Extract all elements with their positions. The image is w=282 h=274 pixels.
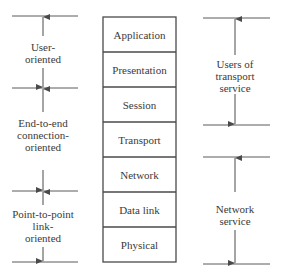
right-boundary-lines: [203, 18, 270, 264]
layer-physical: Physical: [103, 227, 176, 262]
label-line: connection-: [2, 129, 84, 141]
layer-data-link: Data link: [103, 192, 176, 227]
layer-label: Application: [114, 29, 166, 41]
layer-session: Session: [103, 87, 176, 122]
label-line: oriented: [8, 53, 78, 65]
layer-network: Network: [103, 157, 176, 192]
label-user-oriented: User- oriented: [8, 41, 78, 65]
layer-presentation: Presentation: [103, 52, 176, 87]
label-line: Point-to-point: [0, 208, 86, 220]
layer-transport: Transport: [103, 122, 176, 157]
label-end-to-end: End-to-end connection- oriented: [2, 117, 84, 153]
layer-label: Session: [123, 99, 157, 111]
label-line: service: [200, 215, 270, 227]
label-line: Network: [200, 203, 270, 215]
label-network-service: Network service: [200, 203, 270, 227]
layer-label: Physical: [121, 239, 158, 251]
label-line: oriented: [2, 141, 84, 153]
layer-label: Data link: [119, 204, 160, 216]
label-line: User-: [8, 41, 78, 53]
label-point-to-point: Point-to-point link- oriented: [0, 208, 86, 244]
layer-label: Transport: [118, 134, 160, 146]
label-line: service: [200, 82, 270, 94]
label-line: Users of: [200, 58, 270, 70]
layer-label: Presentation: [112, 64, 166, 76]
label-line: oriented: [0, 232, 86, 244]
label-users-of-transport: Users of transport service: [200, 58, 270, 94]
label-line: link-: [0, 220, 86, 232]
label-line: End-to-end: [2, 117, 84, 129]
layer-application: Application: [103, 17, 176, 52]
label-line: transport: [200, 70, 270, 82]
layer-label: Network: [120, 169, 159, 181]
